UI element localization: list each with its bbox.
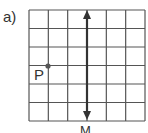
point-p-label: P bbox=[34, 67, 44, 83]
arrow-up-icon bbox=[83, 10, 91, 19]
mirror-line-label: M bbox=[80, 124, 91, 133]
arrow-down-icon bbox=[83, 111, 91, 120]
point-p-dot bbox=[45, 63, 50, 68]
grid-diagram bbox=[0, 0, 148, 133]
